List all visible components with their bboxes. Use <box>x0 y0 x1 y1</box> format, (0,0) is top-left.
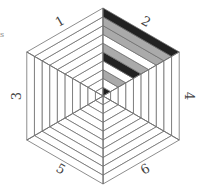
ring-band <box>164 56 172 135</box>
ring-band <box>57 70 65 123</box>
ring-band <box>50 65 58 127</box>
ring-band <box>27 52 35 140</box>
ring-band <box>42 61 50 131</box>
sector-label-2: 2 <box>139 13 154 30</box>
sector-label-1: 1 <box>53 13 68 30</box>
ring-band <box>65 74 73 118</box>
ring-band <box>141 70 149 123</box>
ring-band <box>73 78 81 113</box>
ring-band <box>34 56 42 135</box>
sector-label-6: 6 <box>138 160 153 177</box>
ring-band <box>149 65 157 127</box>
sector-label-3: 3 <box>9 92 24 100</box>
ring-band <box>156 61 164 131</box>
ring-band <box>133 74 141 118</box>
sector-label-5: 5 <box>54 160 69 177</box>
ring-band <box>172 52 180 140</box>
sector-label-4: 4 <box>182 92 197 100</box>
ring-band <box>126 78 134 113</box>
hexagon-ring-diagram: 124653 <box>0 0 207 191</box>
